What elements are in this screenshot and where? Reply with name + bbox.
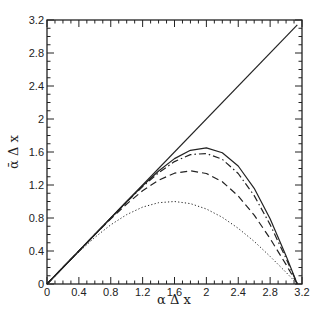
y-tick-label: 2.4: [29, 80, 44, 92]
y-tick-label: 1.2: [29, 179, 44, 191]
x-tick-label: 1.2: [135, 286, 150, 298]
dash-dot-curve-line: [47, 154, 297, 285]
y-tick-label: 0: [38, 278, 44, 290]
y-tick-label: 3.2: [29, 14, 44, 26]
y-tick-label: 2.8: [29, 47, 44, 59]
x-tick-label: 2: [203, 286, 209, 298]
y-tick-label: 0.4: [29, 245, 44, 257]
y-tick-label: 1.6: [29, 146, 44, 158]
solid-curve-line: [47, 148, 297, 284]
x-tick-label: 0: [44, 286, 50, 298]
x-axis-label: α Δ x: [157, 292, 191, 307]
y-axis-label: ᾱ Δ x: [6, 134, 21, 168]
x-tick-label: 3.2: [294, 286, 309, 298]
data-series: [47, 25, 297, 284]
x-tick-label: 2.4: [231, 286, 246, 298]
modified-wavenumber-chart: 00.40.81.21.622.42.83.200.40.81.21.622.4…: [0, 0, 324, 320]
dotted-curve-line: [47, 202, 297, 285]
x-tick-label: 2.8: [262, 286, 277, 298]
tick-labels: 00.40.81.21.622.42.83.200.40.81.21.622.4…: [29, 14, 310, 298]
dashed-curve-line: [47, 171, 297, 284]
y-tick-label: 0.8: [29, 212, 44, 224]
x-tick-label: 0.4: [71, 286, 86, 298]
x-tick-label: 0.8: [103, 286, 118, 298]
y-tick-label: 2: [38, 113, 44, 125]
